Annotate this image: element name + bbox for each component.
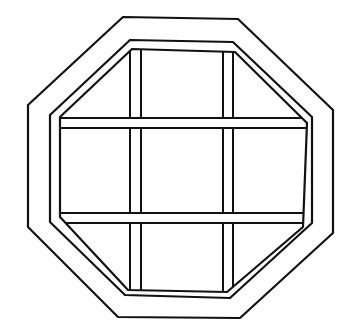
vertical-muntin (223, 0, 233, 329)
inner-frame (50, 40, 312, 298)
horizontal-muntin (0, 213, 348, 223)
muntin-intersection (224, 214, 232, 222)
horizontal-muntin (0, 118, 348, 128)
outer-frame (28, 17, 333, 318)
muntin-intersection (224, 119, 232, 127)
octagonal-window-drawing (0, 0, 348, 329)
muntin-intersection (131, 214, 140, 222)
glass-edge (60, 49, 307, 292)
muntin-intersection (131, 119, 140, 127)
